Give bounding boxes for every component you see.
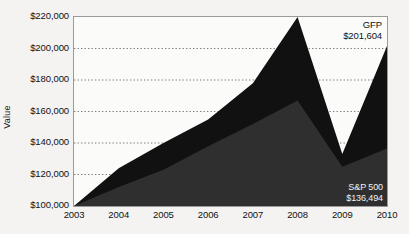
y-axis-tick-label: $160,000	[11, 106, 69, 116]
x-axis-tick-label: 2010	[365, 209, 409, 221]
series-value-gfp: $201,604	[343, 30, 382, 41]
y-axis-tick-label: $180,000	[11, 74, 69, 84]
y-axis-tick-label: $220,000	[11, 11, 69, 21]
x-axis-tick-labels: 20032004200520062007200820092010	[73, 209, 389, 225]
y-axis-tick-labels: $220,000$200,000$180,000$160,000$140,000…	[11, 0, 69, 234]
x-axis-tick-label: 2005	[141, 209, 185, 221]
series-name-sp500: S&P 500	[346, 182, 383, 193]
x-axis-tick-label: 2006	[186, 209, 230, 221]
x-axis-tick-label: 2009	[320, 209, 364, 221]
series-label-gfp: GFP $201,604	[343, 19, 382, 41]
x-axis-tick-label: 2004	[97, 209, 141, 221]
series-name-gfp: GFP	[343, 19, 382, 30]
plot-area: GFP $201,604 S&P 500 $136,494	[73, 16, 388, 207]
y-axis-tick-label: $140,000	[11, 137, 69, 147]
series-value-sp500: $136,494	[346, 193, 383, 204]
x-axis-tick-label: 2003	[52, 209, 96, 221]
chart-figure: Value $220,000$200,000$180,000$160,000$1…	[0, 0, 409, 234]
x-axis-tick-label: 2007	[231, 209, 275, 221]
y-axis-tick-label: $200,000	[11, 43, 69, 53]
series-label-sp500: S&P 500 $136,494	[346, 182, 383, 204]
chart-canvas	[74, 17, 387, 206]
x-axis-tick-label: 2008	[276, 209, 320, 221]
y-axis-tick-label: $120,000	[11, 169, 69, 179]
